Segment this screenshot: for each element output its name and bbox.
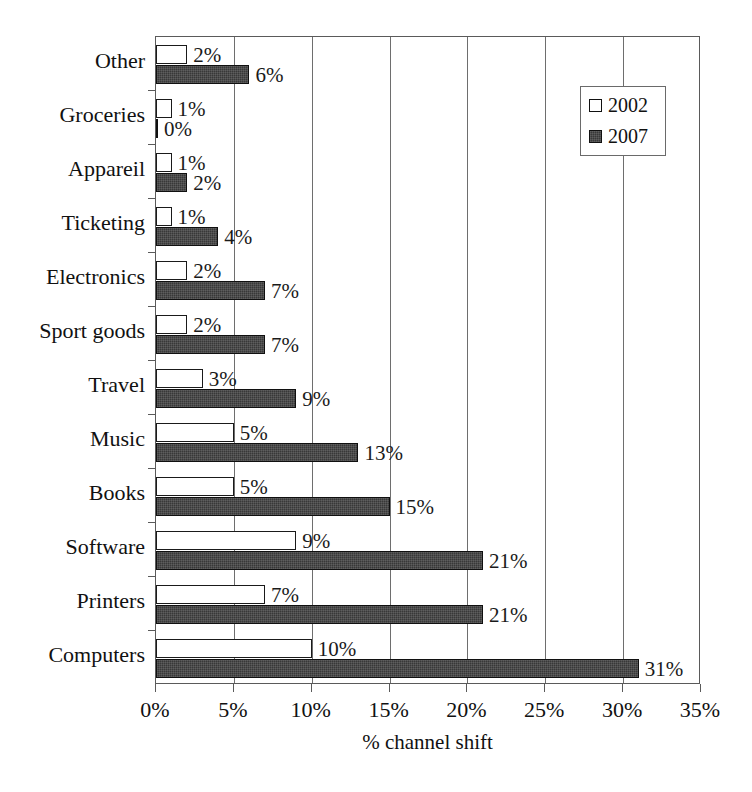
bar-value-label-2007: 15% xyxy=(396,498,435,516)
bar-2002 xyxy=(156,45,187,64)
legend-label: 2007 xyxy=(608,126,648,146)
x-axis-tick-label: 25% xyxy=(504,698,584,722)
bar-value-label-2002: 1% xyxy=(178,100,206,118)
bar-value-label-2002: 10% xyxy=(318,640,357,658)
x-axis-tick-label: 20% xyxy=(426,698,506,722)
bar-value-label-2002: 1% xyxy=(178,154,206,172)
bar-value-label-2007: 21% xyxy=(489,552,528,570)
x-axis-tick xyxy=(155,684,156,692)
x-axis-tick-label: 35% xyxy=(660,698,740,722)
bar-value-label-2002: 2% xyxy=(193,262,221,280)
y-axis-tick xyxy=(148,360,155,361)
legend-item-2002: 2002 xyxy=(589,95,648,115)
bar-value-label-2007: 21% xyxy=(489,606,528,624)
open-square-icon xyxy=(589,99,602,112)
bar-value-label-2002: 9% xyxy=(302,532,330,550)
bar-value-label-2002: 5% xyxy=(240,478,268,496)
bar-2002 xyxy=(156,639,312,658)
x-axis-tick-label: 0% xyxy=(115,698,195,722)
x-axis-tick-label: 10% xyxy=(271,698,351,722)
category-label: Appareil xyxy=(0,158,145,180)
legend-label: 2002 xyxy=(608,95,648,115)
bar-value-label-2007: 2% xyxy=(193,174,221,192)
category-label-wrap: Groceries xyxy=(0,104,145,126)
bar-value-label-2007: 7% xyxy=(271,282,299,300)
bar-2002 xyxy=(156,153,172,172)
bar-chart: 2%6%1%0%1%2%1%4%2%7%2%7%3%9%5%13%5%15%9%… xyxy=(0,0,752,792)
gridline xyxy=(390,37,391,683)
category-label: Books xyxy=(0,482,145,504)
bar-2007 xyxy=(156,389,296,408)
bar-2002 xyxy=(156,207,172,226)
bar-2007 xyxy=(156,227,218,246)
bar-2007 xyxy=(156,551,483,570)
category-label: Groceries xyxy=(0,104,145,126)
category-label: Music xyxy=(0,428,145,450)
bar-value-label-2002: 5% xyxy=(240,424,268,442)
y-axis-tick xyxy=(148,468,155,469)
bar-2002 xyxy=(156,585,265,604)
category-label-wrap: Travel xyxy=(0,374,145,396)
bar-2007 xyxy=(156,497,390,516)
y-axis-tick xyxy=(148,306,155,307)
gridline xyxy=(312,37,313,683)
category-label: Computers xyxy=(0,644,145,666)
x-axis-tick xyxy=(389,684,390,692)
bar-2007 xyxy=(156,173,187,192)
y-axis-tick xyxy=(148,198,155,199)
bar-value-label-2007: 31% xyxy=(645,660,684,678)
bar-value-label-2002: 3% xyxy=(209,370,237,388)
gridline xyxy=(467,37,468,683)
category-label-wrap: Sport goods xyxy=(0,320,145,342)
filled-square-icon xyxy=(589,130,602,143)
bar-value-label-2007: 9% xyxy=(302,390,330,408)
bar-value-label-2002: 7% xyxy=(271,586,299,604)
gridline xyxy=(545,37,546,683)
x-axis-tick xyxy=(311,684,312,692)
x-axis-tick-label: 5% xyxy=(193,698,273,722)
x-axis-tick xyxy=(700,684,701,692)
category-label-wrap: Electronics xyxy=(0,266,145,288)
bar-2002 xyxy=(156,261,187,280)
category-label-wrap: Printers xyxy=(0,590,145,612)
category-label-wrap: Books xyxy=(0,482,145,504)
bar-value-label-2002: 2% xyxy=(193,46,221,64)
bar-2002 xyxy=(156,99,172,118)
category-label-wrap: Software xyxy=(0,536,145,558)
category-label: Printers xyxy=(0,590,145,612)
x-axis-tick xyxy=(466,684,467,692)
bar-value-label-2002: 1% xyxy=(178,208,206,226)
category-label: Software xyxy=(0,536,145,558)
y-axis-tick xyxy=(148,252,155,253)
x-axis-title: % channel shift xyxy=(155,730,700,754)
bar-2002 xyxy=(156,531,296,550)
y-axis-tick xyxy=(148,576,155,577)
bar-value-label-2007: 7% xyxy=(271,336,299,354)
bar-value-label-2007: 13% xyxy=(364,444,403,462)
category-label: Travel xyxy=(0,374,145,396)
y-axis-tick xyxy=(148,522,155,523)
category-label-wrap: Ticketing xyxy=(0,212,145,234)
x-axis-tick xyxy=(233,684,234,692)
category-label: Ticketing xyxy=(0,212,145,234)
bar-value-label-2007: 4% xyxy=(224,228,252,246)
bar-2007 xyxy=(156,65,249,84)
y-axis-tick xyxy=(148,414,155,415)
legend: 2002 2007 xyxy=(580,86,666,156)
x-axis-tick-label: 15% xyxy=(349,698,429,722)
bar-2002 xyxy=(156,369,203,388)
y-axis-tick xyxy=(148,144,155,145)
category-label: Other xyxy=(0,50,145,72)
category-label: Sport goods xyxy=(0,320,145,342)
y-axis-tick xyxy=(148,630,155,631)
bar-2007 xyxy=(156,335,265,354)
bar-2007 xyxy=(156,605,483,624)
bar-value-label-2002: 2% xyxy=(193,316,221,334)
category-label-wrap: Music xyxy=(0,428,145,450)
bar-2007 xyxy=(156,281,265,300)
bar-2002 xyxy=(156,315,187,334)
x-axis-tick xyxy=(544,684,545,692)
bar-2007 xyxy=(156,119,158,138)
x-axis-tick-label: 30% xyxy=(582,698,662,722)
category-label-wrap: Computers xyxy=(0,644,145,666)
